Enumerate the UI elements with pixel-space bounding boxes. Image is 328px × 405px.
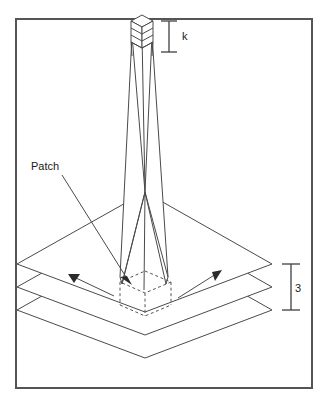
figure-root: k 3 Patch <box>0 0 328 405</box>
patch-label: Patch <box>31 160 59 172</box>
patch-diagram-svg: k 3 Patch <box>0 0 328 405</box>
depth-dimension-label: 3 <box>295 282 301 294</box>
k-dimension-label: k <box>182 30 188 42</box>
